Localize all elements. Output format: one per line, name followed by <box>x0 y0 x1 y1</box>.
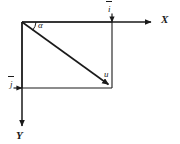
x-axis-label: X <box>161 14 168 25</box>
vector-u-label: u <box>104 70 109 79</box>
angle-alpha-text: α <box>38 20 43 30</box>
vector-u-line <box>22 22 109 85</box>
y-axis-label: Y <box>16 130 23 141</box>
angle-alpha-arc <box>33 22 36 30</box>
x-axis-label-text: X <box>161 13 168 25</box>
unit-vector-i-text: i <box>108 5 111 14</box>
unit-vector-i-label: i <box>108 5 111 14</box>
unit-vector-j-label: j <box>10 80 13 89</box>
vector-u-text: u <box>104 69 109 79</box>
diagram-canvas <box>0 0 180 144</box>
unit-vector-j-text: j <box>10 80 13 89</box>
y-axis-label-text: Y <box>16 129 23 141</box>
angle-alpha-label: α <box>38 21 43 30</box>
vector-diagram-figure: i j u α X Y <box>0 0 180 144</box>
